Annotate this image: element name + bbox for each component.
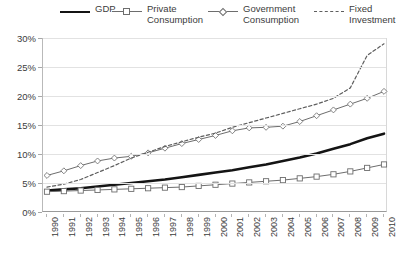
x-axis-tick [349,214,350,217]
x-axis-tick-label: 2007 [336,217,346,237]
x-axis-tick-label: 1993 [101,217,111,237]
y-axis-tick [38,212,42,213]
gridline [43,154,386,155]
gridline [43,183,386,184]
legend-label-private-consumption: Private Consumption [147,4,203,25]
legend-label-government-consumption: Government Consumption [243,4,299,25]
series-government-consumption [44,88,387,178]
legend-swatch-private-consumption-icon [112,6,142,18]
series-fixed-investment [47,44,384,187]
x-axis-tick-label: 2005 [303,217,313,237]
x-axis-tick-label: 1997 [168,217,178,237]
x-axis-tick [265,214,266,217]
x-axis-tick [332,214,333,217]
x-axis-tick-label: 1998 [185,217,195,237]
gridline [43,96,386,97]
gridline [43,38,386,39]
line-chart: GDP Private Consumption Government Consu… [0,0,399,263]
y-axis-tick-label: 25% [17,62,36,73]
x-axis-tick-label: 2008 [353,217,363,237]
x-axis-tick-label: 2006 [320,217,330,237]
x-axis-tick-label: 2010 [387,217,397,237]
legend-swatch-gdp-icon [60,6,90,18]
x-axis-tick-label: 2004 [286,217,296,237]
legend-item-gdp[interactable]: GDP [60,4,116,18]
x-axis-tick-label: 1996 [151,217,161,237]
legend-label-fixed-investment: Fixed Investment [349,4,395,25]
x-axis-tick-label: 2009 [370,217,380,237]
plot-area [42,38,387,212]
y-axis-tick-label: 5% [22,178,36,189]
y-axis-tick-label: 10% [17,149,36,160]
chart-legend: GDP Private Consumption Government Consu… [0,4,399,34]
x-axis-tick [215,214,216,217]
x-axis-tick [198,214,199,217]
legend-item-fixed-investment[interactable]: Fixed Investment [314,4,395,25]
x-axis-tick [147,214,148,217]
x-axis-tick-label: 1990 [50,217,60,237]
y-axis-tick-label: 20% [17,91,36,102]
legend-item-government-consumption[interactable]: Government Consumption [208,4,299,25]
x-axis-tick [97,214,98,217]
gridline [43,67,386,68]
series-private-consumption [44,162,386,194]
x-axis-tick [248,214,249,217]
x-axis-tick [316,214,317,217]
legend-item-private-consumption[interactable]: Private Consumption [112,4,203,25]
y-axis-tick-label: 0% [22,207,36,218]
y-axis-tick-label: 30% [17,33,36,44]
x-axis-tick-label: 1992 [84,217,94,237]
y-axis: 0%5%10%15%20%25%30% [0,38,40,212]
x-axis-tick-label: 1994 [117,217,127,237]
gridline [43,125,386,126]
x-axis-tick [181,214,182,217]
x-axis-tick [383,214,384,217]
x-axis-tick [231,214,232,217]
x-axis-tick [130,214,131,217]
x-axis-tick [46,214,47,217]
x-axis-tick-label: 1995 [134,217,144,237]
x-axis-tick-label: 2002 [252,217,262,237]
x-axis-tick [164,214,165,217]
x-axis-tick-label: 1999 [202,217,212,237]
legend-swatch-government-consumption-icon [208,6,238,18]
x-axis-tick [63,214,64,217]
x-axis: 1990199119921993199419951996199719981999… [42,214,387,260]
x-axis-tick-label: 2003 [269,217,279,237]
x-axis-tick-label: 2000 [219,217,229,237]
x-axis-tick [113,214,114,217]
x-axis-tick [299,214,300,217]
legend-swatch-fixed-investment-icon [314,6,344,18]
x-axis-tick [366,214,367,217]
x-axis-tick [80,214,81,217]
x-axis-tick-label: 1991 [67,217,77,237]
x-axis-tick [282,214,283,217]
y-axis-tick-label: 15% [17,120,36,131]
x-axis-tick-label: 2001 [235,217,245,237]
